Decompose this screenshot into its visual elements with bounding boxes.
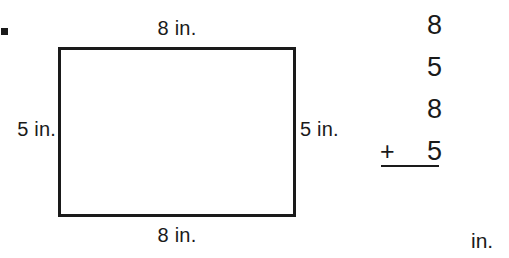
rectangle-left-width-label: 5 in. bbox=[0, 119, 56, 139]
worksheet-page: 8 in. 5 in. 5 in. 8 in. 8 5 8 + 5 in. bbox=[0, 0, 509, 258]
addend-value-2: 5 bbox=[427, 54, 442, 81]
answer-unit-label: in. bbox=[471, 230, 493, 251]
addend-row-2: 5 bbox=[376, 46, 442, 88]
rectangle-figure bbox=[58, 47, 296, 217]
addend-value-1: 8 bbox=[427, 12, 442, 39]
plus-operator-icon: + bbox=[380, 139, 395, 164]
rectangle-top-length-label: 8 in. bbox=[58, 18, 296, 38]
addend-row-1: 8 bbox=[376, 4, 442, 46]
rectangle-right-width-label: 5 in. bbox=[300, 119, 339, 139]
addition-horizontal-rule bbox=[381, 165, 439, 167]
addend-value-4: 5 bbox=[427, 138, 442, 165]
rectangle-bottom-length-label: 8 in. bbox=[58, 225, 296, 245]
square-bullet-icon bbox=[1, 28, 8, 35]
addend-row-3: 8 bbox=[376, 88, 442, 130]
addend-value-3: 8 bbox=[427, 96, 442, 123]
addition-column: 8 5 8 + 5 bbox=[376, 4, 442, 172]
